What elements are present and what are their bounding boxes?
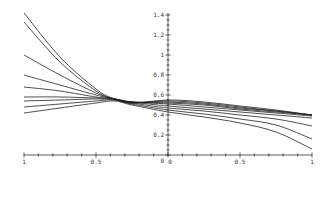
y-tick-label: 1	[160, 51, 164, 58]
x-tick-label: 0.5	[235, 158, 246, 165]
x-tick-label: 0	[168, 158, 172, 165]
x-tick-label: 1	[22, 158, 26, 165]
y-tick-label: 0.4	[153, 111, 164, 118]
y-tick-label: 1.4	[153, 11, 164, 18]
y-tick-label: 0.8	[153, 71, 164, 78]
y-tick-label: 0.2	[153, 131, 164, 138]
x-tick-label: 1	[310, 158, 314, 165]
x-tick-label: 0.5	[91, 158, 102, 165]
origin-label: 0	[160, 157, 164, 164]
y-tick-label: 1.2	[153, 31, 164, 38]
axes	[24, 13, 312, 158]
y-tick-label: 0.6	[153, 91, 164, 98]
line-chart: 10.500.510.20.40.60.811.21.40	[0, 0, 331, 203]
